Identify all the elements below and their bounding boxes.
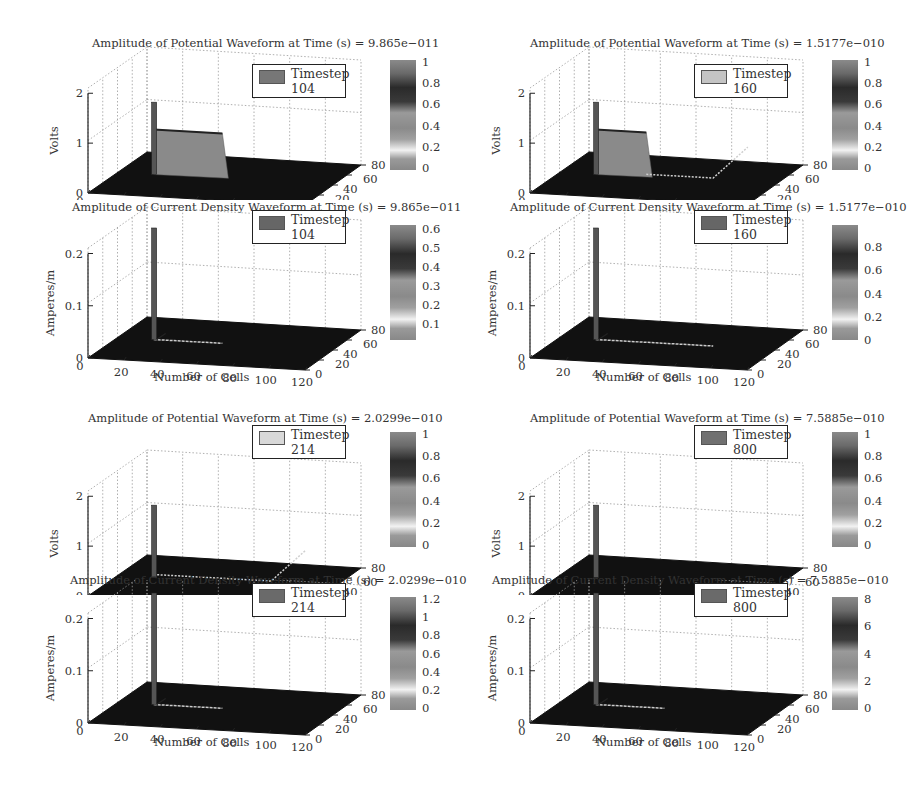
colorbar	[832, 597, 858, 710]
svg-text:20: 20	[556, 730, 571, 744]
surface-plot: 00.10.2Amperes/m020406080100120020406080	[0, 195, 456, 395]
colorbar-tick: 0.4	[422, 665, 440, 679]
colorbar-tick: 6	[864, 619, 871, 633]
svg-text:60: 60	[363, 702, 378, 716]
svg-text:60: 60	[805, 172, 820, 186]
colorbar	[390, 60, 416, 170]
colorbar-tick: 0.4	[422, 260, 440, 274]
colorbar-tick: 1	[422, 427, 429, 441]
colorbar-tick: 0.6	[422, 647, 440, 661]
svg-text:Amperes/m: Amperes/m	[485, 270, 499, 337]
plot-panel-p5: Amplitude of Potential Waveform at Time …	[0, 395, 456, 595]
svg-text:60: 60	[363, 172, 378, 186]
colorbar-tick: 0.8	[864, 76, 882, 90]
svg-text:0: 0	[315, 732, 322, 746]
x-axis-label: Number of Cells	[596, 735, 691, 749]
svg-text:0.2: 0.2	[507, 612, 525, 626]
plot-panel-p1: Amplitude of Potential Waveform at Time …	[0, 0, 456, 200]
colorbar-tick: 0.5	[422, 241, 440, 255]
legend-timestep: 800	[733, 442, 757, 457]
x-axis-label: Number of Cells	[154, 735, 249, 749]
svg-text:0.1: 0.1	[65, 299, 83, 313]
svg-text:0.2: 0.2	[507, 247, 525, 261]
colorbar-tick: 0.8	[864, 449, 882, 463]
svg-text:0.1: 0.1	[507, 299, 525, 313]
svg-text:0.2: 0.2	[65, 612, 83, 626]
surface-plot: 012Volts020406080100120020406080	[0, 0, 456, 200]
colorbar	[390, 432, 416, 547]
svg-text:Amperes/m: Amperes/m	[43, 270, 57, 337]
legend-swatch	[259, 589, 285, 603]
svg-text:120: 120	[733, 740, 755, 754]
svg-text:60: 60	[805, 702, 820, 716]
svg-text:0: 0	[757, 732, 764, 746]
colorbar-tick: 0.4	[422, 119, 440, 133]
svg-text:60: 60	[363, 337, 378, 351]
legend: Timestep 104	[252, 64, 346, 98]
svg-text:80: 80	[813, 323, 828, 337]
svg-text:100: 100	[697, 373, 719, 387]
colorbar-tick: 4	[864, 647, 871, 661]
legend-timestep: 104	[291, 81, 315, 96]
colorbar-tick: 0	[864, 538, 871, 552]
legend: Timestep 214	[252, 583, 346, 617]
svg-text:80: 80	[813, 158, 828, 172]
svg-text:2: 2	[76, 489, 83, 503]
svg-text:0.1: 0.1	[507, 664, 525, 678]
svg-text:80: 80	[371, 158, 386, 172]
colorbar	[832, 225, 858, 340]
colorbar-tick: 0.8	[422, 449, 440, 463]
colorbar-tick: 0	[864, 333, 871, 347]
svg-text:100: 100	[255, 738, 277, 752]
legend-timestep: 160	[733, 81, 757, 96]
colorbar-tick: 2	[864, 674, 871, 688]
colorbar-tick: 0.6	[422, 471, 440, 485]
colorbar-tick: 8	[864, 592, 871, 606]
svg-text:120: 120	[291, 740, 313, 754]
legend-label: Timestep	[291, 427, 349, 442]
svg-text:2: 2	[76, 86, 83, 100]
svg-text:0: 0	[757, 367, 764, 381]
colorbar	[390, 225, 416, 340]
colorbar-tick: 0	[422, 701, 429, 715]
svg-text:1: 1	[76, 136, 83, 150]
legend-label: Timestep	[733, 585, 791, 600]
legend-label: Timestep	[733, 212, 791, 227]
colorbar-tick: 1	[422, 55, 429, 69]
legend: Timestep 800	[694, 583, 788, 617]
plot-panel-p8: Amplitude of Current Density Waveform at…	[456, 580, 912, 789]
surface-plot: 00.10.2Amperes/m020406080100120020406080	[0, 580, 456, 780]
svg-text:100: 100	[697, 738, 719, 752]
svg-text:100: 100	[255, 373, 277, 387]
x-axis-label: Number of Cells	[154, 370, 249, 384]
legend-label: Timestep	[733, 427, 791, 442]
colorbar-tick: 0.6	[864, 471, 882, 485]
svg-text:Volts: Volts	[489, 126, 503, 155]
colorbar-tick: 0	[422, 538, 429, 552]
colorbar-tick: 1	[864, 55, 871, 69]
legend-timestep: 214	[291, 600, 315, 615]
colorbar-tick: 0.2	[422, 140, 440, 154]
legend-label: Timestep	[291, 212, 349, 227]
legend-swatch	[259, 70, 285, 84]
svg-text:80: 80	[371, 323, 386, 337]
colorbar-tick: 0.8	[422, 628, 440, 642]
plot-panel-p2: Amplitude of Potential Waveform at Time …	[456, 0, 912, 200]
colorbar	[390, 597, 416, 710]
svg-text:0.1: 0.1	[65, 664, 83, 678]
colorbar-tick: 0	[864, 161, 871, 175]
colorbar-tick: 0.2	[422, 683, 440, 697]
colorbar	[832, 60, 858, 170]
svg-text:20: 20	[114, 365, 129, 379]
svg-text:80: 80	[371, 688, 386, 702]
legend: Timestep 214	[252, 425, 346, 459]
colorbar-tick: 0.2	[864, 310, 882, 324]
legend: Timestep 104	[252, 210, 346, 244]
legend-timestep: 800	[733, 600, 757, 615]
svg-text:0: 0	[518, 359, 525, 373]
legend-swatch	[701, 216, 727, 230]
svg-text:Volts: Volts	[47, 529, 61, 558]
svg-text:40: 40	[343, 712, 358, 726]
svg-text:20: 20	[114, 730, 129, 744]
plot-panel-p3: Amplitude of Current Density Waveform at…	[0, 195, 456, 395]
